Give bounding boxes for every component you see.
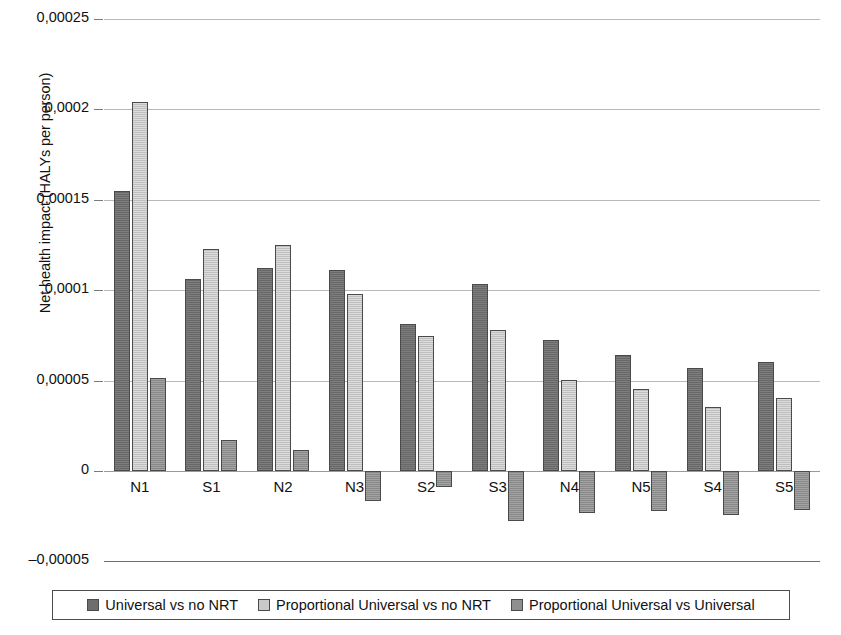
bar	[508, 471, 524, 521]
bar	[633, 389, 649, 471]
bar	[687, 368, 703, 471]
bar	[615, 355, 631, 471]
bar	[651, 471, 667, 511]
bar	[776, 398, 792, 471]
y-tick-label: 0,0002	[45, 99, 89, 115]
y-tick-label: –0,00005	[29, 551, 89, 567]
bar	[365, 471, 381, 501]
bar	[221, 440, 237, 471]
bar	[758, 362, 774, 471]
y-tick-mark	[94, 19, 103, 20]
bar	[723, 471, 739, 515]
gridline	[104, 561, 820, 562]
y-tick-mark	[94, 200, 103, 201]
bar	[705, 407, 721, 471]
bar	[418, 336, 434, 471]
legend-label: Proportional Universal vs no NRT	[276, 597, 491, 613]
bar	[150, 378, 166, 471]
bar	[472, 284, 488, 471]
bar	[257, 268, 273, 471]
x-tick-label: S1	[176, 478, 248, 495]
legend-item: Universal vs no NRT	[87, 597, 238, 613]
y-tick-label: 0,00005	[37, 371, 89, 387]
bar	[275, 245, 291, 471]
bar	[794, 471, 810, 510]
bar	[114, 191, 130, 471]
bar	[132, 102, 148, 471]
chart-legend: Universal vs no NRT Proportional Univers…	[52, 590, 790, 620]
legend-swatch-icon	[258, 599, 270, 611]
legend-item: Proportional Universal vs no NRT	[258, 597, 491, 613]
y-tick-label: 0,00015	[37, 190, 89, 206]
y-tick-label: 0,0001	[45, 280, 89, 296]
bar	[329, 270, 345, 471]
bar	[436, 471, 452, 487]
bar	[543, 340, 559, 471]
bar	[203, 249, 219, 471]
y-tick-mark	[94, 381, 103, 382]
y-tick-mark	[94, 471, 103, 472]
plot-area	[104, 19, 820, 471]
bar	[579, 471, 595, 513]
legend-label: Universal vs no NRT	[105, 597, 238, 613]
x-tick-label: N2	[247, 478, 319, 495]
y-tick-mark	[94, 109, 103, 110]
bar-chart: Net health impact (HALYs per person) 0,0…	[0, 0, 841, 635]
bar	[490, 330, 506, 471]
legend-label: Proportional Universal vs Universal	[529, 597, 755, 613]
bar	[347, 294, 363, 471]
y-tick-label: 0,00025	[37, 9, 89, 25]
x-tick-label: N1	[104, 478, 176, 495]
legend-swatch-icon	[511, 599, 523, 611]
bar	[185, 279, 201, 471]
bar	[400, 324, 416, 471]
gridline	[104, 471, 820, 472]
legend-swatch-icon	[87, 599, 99, 611]
y-tick-label: 0	[81, 461, 89, 477]
legend-item: Proportional Universal vs Universal	[511, 597, 755, 613]
bar	[561, 380, 577, 471]
bar	[293, 450, 309, 471]
y-tick-mark	[94, 290, 103, 291]
